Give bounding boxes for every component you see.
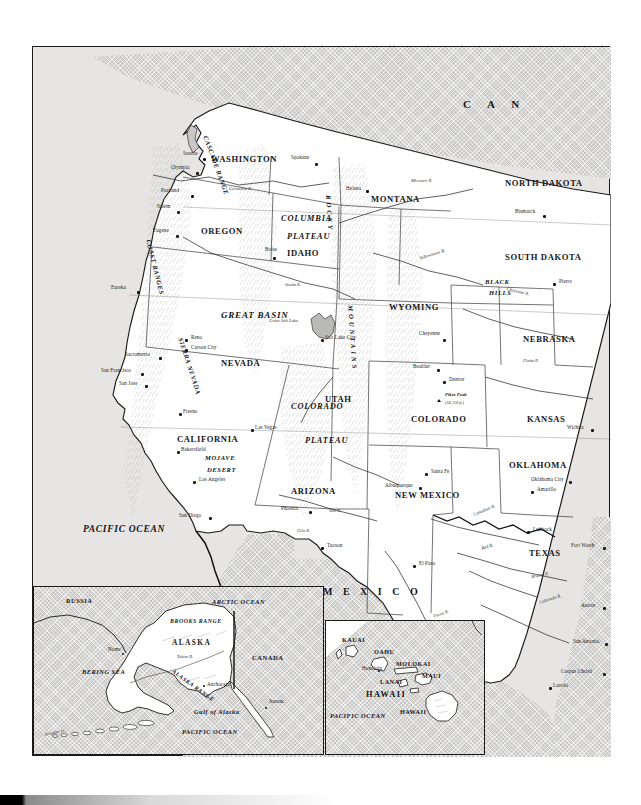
city-dot-bismarck bbox=[543, 215, 546, 218]
city-label-eureka: Eureka bbox=[111, 285, 126, 290]
city-dot-salt-lake-city bbox=[321, 339, 324, 342]
map-page: C A N M E X I C O PACIFIC OCEAN WASHINGT… bbox=[0, 0, 641, 805]
city-label-salem: Salem bbox=[157, 204, 170, 209]
city-label-boise: Boise bbox=[265, 247, 277, 252]
city-dot-pierre bbox=[553, 283, 556, 286]
river-label-columbia: Columbia R. bbox=[229, 187, 252, 192]
city-label-amarillo: Amarillo bbox=[537, 487, 556, 492]
city-label-austin: Austin bbox=[581, 603, 595, 608]
state-label-south-dakota: SOUTH DAKOTA bbox=[505, 253, 582, 262]
city-dot-albuquerque bbox=[419, 487, 422, 490]
city-dot-fresno bbox=[179, 413, 182, 416]
city-dot-lubbock bbox=[527, 531, 530, 534]
city-label-pierre: Pierre bbox=[559, 279, 572, 284]
city-dot-spokane bbox=[315, 163, 318, 166]
city-dot-laredo bbox=[549, 687, 552, 690]
city-label-san-francisco: San Francisco bbox=[101, 368, 131, 373]
city-dot-cheyenne bbox=[443, 339, 446, 342]
physio-label-columbia: COLUMBIA bbox=[281, 215, 332, 223]
city-dot-olympia bbox=[196, 172, 199, 175]
city-dot-seattle bbox=[203, 158, 206, 161]
alaska-city-dot-juneau bbox=[265, 707, 267, 709]
state-label-north-dakota: NORTH DAKOTA bbox=[505, 179, 583, 188]
city-label-seattle: Seattle bbox=[183, 151, 198, 156]
physio-label-desert: DESERT bbox=[207, 467, 236, 474]
peak-elevation-pikes-peak: (14,110 ft.) bbox=[445, 401, 464, 405]
country-label-mexico: M E X I C O bbox=[323, 587, 422, 597]
river-label-gila: Gila R. bbox=[297, 529, 310, 534]
city-label-san-jose: San Jose bbox=[119, 381, 138, 386]
city-dot-tucson bbox=[321, 547, 324, 550]
hawaii-island-label-hawaii: HAWAII bbox=[400, 709, 426, 715]
city-dot-los-angeles bbox=[193, 481, 196, 484]
city-label-oklahoma-city: Oklahoma City bbox=[531, 477, 564, 482]
hawaii-city-label-honolulu: Honolulu bbox=[362, 666, 382, 671]
alaska-city-label-juneau: Juneau bbox=[269, 699, 284, 704]
puget-sound bbox=[187, 125, 199, 153]
city-dot-eugene bbox=[176, 235, 179, 238]
peak-marker-pikes-peak bbox=[437, 399, 441, 402]
state-label-washington: WASHINGTON bbox=[211, 155, 277, 164]
hawaii-inset: KAUAI OAHU MOLOKAI MAUI LANAI HAWAII HAW… bbox=[325, 620, 485, 755]
city-dot-reno bbox=[185, 339, 188, 342]
city-dot-eureka bbox=[137, 291, 140, 294]
river-label-platte: Platte R. bbox=[523, 359, 539, 364]
hawaii-island-label-lanai: LANAI bbox=[380, 679, 402, 685]
city-label-fort-worth: Fort Worth bbox=[571, 543, 594, 548]
city-dot-carson-city bbox=[185, 349, 188, 352]
city-label-tucson: Tucson bbox=[327, 543, 342, 548]
state-label-wyoming: WYOMING bbox=[389, 303, 439, 312]
state-label-nevada: NEVADA bbox=[221, 359, 260, 368]
state-label-oregon: OREGON bbox=[201, 227, 243, 236]
city-label-olympia: Olympia bbox=[171, 165, 190, 170]
hawaii-island-label-molokai: MOLOKAI bbox=[396, 661, 431, 667]
hawaii-region-label: HAWAII bbox=[366, 691, 406, 699]
alaska-label-russia: RUSSIA bbox=[66, 598, 92, 604]
state-label-montana: MONTANA bbox=[371, 195, 420, 204]
alaska-city-label-nome: Nome bbox=[108, 647, 121, 652]
peak-label-pikes-peak: Pikes Peak bbox=[445, 393, 467, 398]
water-label-great-salt-lake: Great Salt Lake bbox=[269, 319, 298, 324]
city-dot-helena bbox=[366, 190, 369, 193]
hawaii-island-label-oahu: OAHU bbox=[374, 649, 395, 655]
alaska-label-yukon-river: Yukon R. bbox=[177, 655, 193, 660]
city-label-los-angeles: Los Angeles bbox=[199, 477, 225, 482]
alaska-city-dot-nome bbox=[122, 653, 124, 655]
physio-label-colorado-plateau-1: COLORADO bbox=[291, 403, 343, 411]
physio-label-black: BLACK bbox=[485, 279, 510, 286]
city-label-bakersfield: Bakersfield bbox=[181, 447, 206, 452]
city-dot-boise bbox=[273, 257, 276, 260]
city-dot-san-jose bbox=[145, 385, 148, 388]
city-label-denver: Denver bbox=[449, 377, 465, 382]
city-dot-portland bbox=[191, 195, 194, 198]
page-bottom-artifact bbox=[0, 795, 330, 805]
alaska-city-label-anchorage: Anchorage bbox=[207, 682, 230, 687]
state-label-nebraska: NEBRASKA bbox=[523, 335, 576, 344]
river-label-salt: Salt R. bbox=[329, 509, 341, 514]
country-label-canada: C A N bbox=[463, 99, 526, 110]
city-label-el-paso: El Paso bbox=[419, 561, 435, 566]
city-dot-bakersfield bbox=[177, 451, 180, 454]
city-dot-denver bbox=[443, 381, 446, 384]
city-dot-phoenix bbox=[309, 511, 312, 514]
city-label-albuquerque: Albuquerque bbox=[385, 483, 413, 488]
ocean-label-pacific: PACIFIC OCEAN bbox=[83, 525, 165, 535]
state-label-arizona: ARIZONA bbox=[291, 487, 336, 496]
city-label-san-antonio: San Antonio bbox=[573, 639, 599, 644]
physio-label-colorado-plateau-2: PLATEAU bbox=[305, 437, 348, 445]
city-dot-boulder bbox=[437, 369, 440, 372]
city-dot-salem bbox=[177, 211, 180, 214]
city-dot-el-paso bbox=[413, 565, 416, 568]
city-label-phoenix: Phoenix bbox=[281, 506, 298, 511]
river-label-missouri: Missouri R. bbox=[411, 179, 432, 184]
alaska-label-brooks-range: BROOKS RANGE bbox=[170, 619, 222, 625]
alaska-label-pacific-ocean: PACIFIC OCEAN bbox=[182, 729, 238, 735]
state-label-kansas: KANSAS bbox=[527, 415, 565, 424]
city-label-las-vegas: Las Vegas bbox=[255, 425, 277, 430]
city-label-portland: Portland bbox=[161, 188, 179, 193]
city-label-spokane: Spokane bbox=[291, 155, 309, 160]
physio-label-columbia-plateau: PLATEAU bbox=[287, 233, 330, 241]
city-label-sacramento: Sacramento bbox=[125, 352, 150, 357]
city-dot-amarillo bbox=[531, 491, 534, 494]
city-label-cheyenne: Cheyenne bbox=[419, 331, 440, 336]
